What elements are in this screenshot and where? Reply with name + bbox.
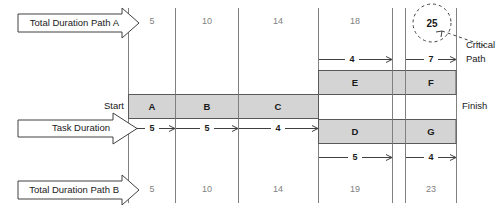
critical-path-label-line2: Path	[466, 53, 486, 64]
lower-duration-arrows: 5 4	[319, 151, 456, 164]
duration-E: 4	[349, 54, 354, 64]
start-label: Start	[104, 100, 124, 111]
duration-F: 7	[428, 54, 433, 64]
lower-task-band: D G	[319, 120, 457, 144]
callout-path-a-label: Total Duration Path A	[30, 17, 120, 28]
band-lower	[319, 120, 457, 144]
middle-duration-arrows: 5 5 4	[129, 122, 318, 135]
duration-D: 5	[352, 152, 357, 162]
band-upper	[319, 71, 457, 95]
bottom-value-0: 5	[149, 184, 154, 194]
duration-G: 4	[428, 152, 433, 162]
callout-total-duration-path-a: Total Duration Path A	[18, 8, 139, 38]
bottom-value-1: 10	[202, 184, 212, 194]
callout-path-b-label: Total Duration Path B	[29, 184, 119, 195]
duration-A: 5	[149, 123, 154, 133]
top-value-1: 10	[202, 16, 212, 26]
upper-duration-arrows: 4 7	[319, 53, 456, 66]
duration-C: 4	[275, 123, 280, 133]
task-bar-B: B	[204, 101, 211, 112]
middle-task-band: A B C	[129, 95, 319, 119]
task-bar-G: G	[427, 126, 434, 137]
total-duration-circle: 25	[413, 4, 451, 42]
top-cumulative-row: 5 10 14 18	[149, 16, 360, 26]
critical-path-label-line1: Critical	[466, 39, 495, 50]
task-bar-D: D	[352, 126, 359, 137]
task-bar-A: A	[149, 101, 156, 112]
callout-task-duration: Task Duration	[18, 113, 137, 144]
top-value-0: 5	[149, 16, 154, 26]
bottom-value-3: 19	[350, 184, 360, 194]
task-bar-E: E	[352, 77, 358, 88]
upper-task-band: E F	[319, 71, 457, 95]
task-bar-F: F	[428, 77, 434, 88]
bottom-value-2: 14	[273, 184, 283, 194]
leader-arrowhead	[436, 31, 442, 37]
duration-B: 5	[204, 123, 209, 133]
top-value-2: 14	[273, 16, 283, 26]
callout-task-duration-label: Task Duration	[52, 122, 110, 133]
top-value-3: 18	[350, 16, 360, 26]
bottom-cumulative-row: 5 10 14 19 23	[149, 184, 436, 194]
callout-total-duration-path-b: Total Duration Path B	[18, 175, 139, 205]
task-bar-C: C	[275, 101, 282, 112]
band-middle	[129, 95, 319, 119]
bottom-value-4: 23	[426, 184, 436, 194]
critical-path-diagram: 5 10 14 18 25 Critical Path 4 7	[0, 0, 502, 211]
finish-label: Finish	[462, 100, 487, 111]
circle-value: 25	[426, 18, 438, 29]
diagram-canvas: 5 10 14 18 25 Critical Path 4 7	[0, 0, 502, 211]
